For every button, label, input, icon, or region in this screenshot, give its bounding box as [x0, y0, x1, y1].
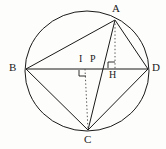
chord-a-b	[26, 20, 115, 69]
point-label-h: H	[109, 70, 116, 80]
right-angle-at-h	[108, 62, 115, 68]
geometry-figure: A B C D I P H	[0, 0, 166, 149]
altitude-c-i	[85, 69, 88, 130]
point-label-b: B	[9, 62, 16, 73]
chord-c-d	[88, 69, 148, 130]
chord-b-c	[26, 69, 88, 130]
geometry-canvas	[0, 0, 166, 149]
point-label-p: P	[90, 54, 96, 64]
point-label-a: A	[112, 3, 120, 14]
point-label-d: D	[152, 62, 160, 73]
point-label-c: C	[84, 134, 91, 145]
point-label-i: I	[79, 54, 82, 64]
